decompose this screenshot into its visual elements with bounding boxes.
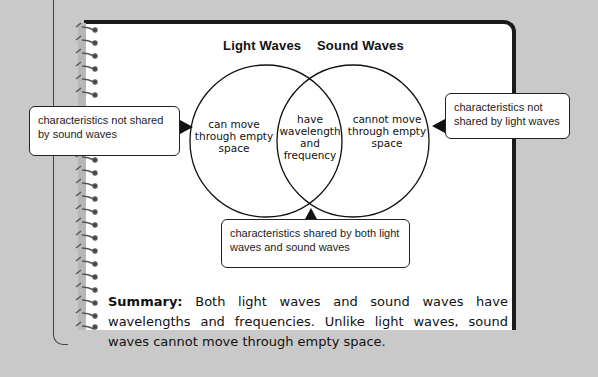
text-line: space: [192, 142, 276, 154]
shared-text: have wavelength and frequency: [276, 113, 344, 161]
sound-only-text: cannot move through empty space: [345, 113, 429, 149]
text-line: and: [276, 137, 344, 149]
light-only-text: can move through empty space: [192, 118, 276, 154]
summary-label: Summary:: [108, 294, 183, 309]
callout-bottom: characteristics shared by both light wav…: [221, 219, 410, 268]
light-waves-title: Light Waves: [223, 38, 301, 53]
right-pointer-icon: [432, 119, 445, 133]
sound-waves-title: Sound Waves: [317, 38, 404, 53]
text-line: space: [345, 137, 429, 149]
text-line: frequency: [276, 149, 344, 161]
summary-paragraph: Summary: Both light waves and sound wave…: [108, 292, 508, 352]
text-line: through empty: [345, 125, 429, 137]
text-line: through empty: [192, 130, 276, 142]
text-line: wavelength: [276, 125, 344, 137]
text-line: have: [276, 113, 344, 125]
callout-right: characteristics not shared by light wave…: [445, 93, 570, 139]
text-line: can move: [192, 118, 276, 130]
callout-left: characteristics not shared by sound wave…: [29, 106, 180, 156]
text-line: cannot move: [345, 113, 429, 125]
